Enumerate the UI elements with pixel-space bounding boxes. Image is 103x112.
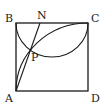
label-d: D	[91, 93, 100, 104]
label-c: C	[91, 13, 99, 24]
diagram-canvas	[0, 0, 103, 112]
label-a: A	[5, 93, 13, 104]
label-b: B	[5, 13, 13, 24]
label-p: P	[31, 52, 38, 63]
geometry-diagram: B N C P A D	[0, 0, 103, 112]
semicircle-bc	[16, 23, 88, 57]
label-n: N	[37, 10, 47, 21]
